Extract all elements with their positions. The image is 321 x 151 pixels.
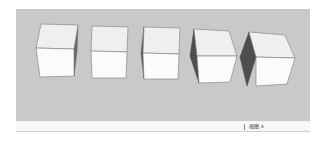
cube-3-top-face[interactable] bbox=[143, 27, 180, 54]
cube-1[interactable] bbox=[36, 24, 78, 77]
cube-3-front-face[interactable] bbox=[143, 53, 179, 79]
cube-4-top-face[interactable] bbox=[194, 29, 237, 56]
cube-2[interactable] bbox=[91, 26, 128, 78]
status-separator bbox=[244, 124, 245, 130]
cube-1-front-face[interactable] bbox=[36, 48, 74, 77]
status-view-indicator[interactable]: 视图 ∧ bbox=[244, 122, 264, 130]
cube-5-top-face[interactable] bbox=[249, 32, 295, 58]
cube-2-top-face[interactable] bbox=[91, 26, 128, 52]
status-view-label: 视图 ∧ bbox=[249, 123, 264, 129]
cube-4-front-face[interactable] bbox=[197, 56, 237, 83]
cube-4[interactable] bbox=[190, 29, 237, 83]
viewport-canvas[interactable] bbox=[16, 9, 310, 121]
cube-1-top-face[interactable] bbox=[36, 24, 78, 49]
cube-2-front-face[interactable] bbox=[91, 51, 127, 78]
cube-5[interactable] bbox=[240, 32, 295, 86]
3d-viewport[interactable] bbox=[16, 9, 310, 121]
modeling-app: 视图 ∧ bbox=[0, 0, 321, 151]
status-bar: 视图 ∧ bbox=[16, 121, 310, 132]
cube-5-front-face[interactable] bbox=[256, 57, 295, 86]
cube-3[interactable] bbox=[141, 27, 180, 79]
